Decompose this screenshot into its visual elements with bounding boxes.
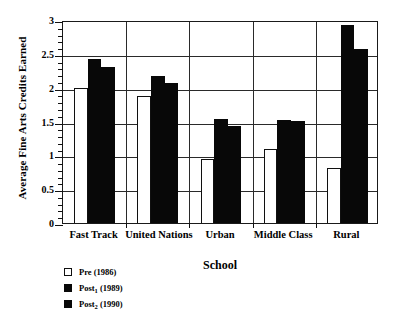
y-axis-tick-label: 0.5 [28,185,54,195]
legend-item: Post1 (1989) [64,280,214,296]
bar [101,67,115,223]
y-axis-tick-label: 2 [28,84,54,94]
y-axis-major-tick [55,90,63,91]
legend-swatch [64,268,72,276]
y-axis-tick-label: 1 [28,151,54,161]
x-axis-tick [126,223,127,228]
x-axis-category-label: Urban [188,230,251,241]
x-axis-category-label: Rural [315,230,378,241]
bar-group [126,22,189,223]
y-axis-major-tick [55,22,63,23]
bar [354,49,368,223]
bar-group [316,22,379,223]
y-axis-major-tick [55,157,63,158]
legend-label: Pre (1986) [79,268,116,277]
legend-label: Post1 (1989) [79,284,123,293]
y-axis-tick-label: 2.5 [28,50,54,60]
legend-item: Post2 (1990) [64,296,214,312]
bar-group [63,22,126,223]
bar [201,159,215,223]
x-axis-tick [316,223,317,228]
chart-legend: Pre (1986)Post1 (1989)Post2 (1990) [64,264,214,312]
legend-item: Pre (1986) [64,264,214,280]
bar [137,96,151,223]
x-axis-tick [253,223,254,228]
y-axis-major-tick [55,56,63,57]
x-axis-category-label: Middle Class [252,230,315,241]
bar-group [253,22,316,223]
y-axis-title: Average Fine Arts Credits Earned [16,8,28,228]
x-axis-category-label: United Nations [125,230,188,241]
x-axis-category-label: Fast Track [62,230,125,241]
bar-chart-figure: Average Fine Arts Credits Earned School … [0,0,396,321]
bar [291,121,305,223]
y-axis-tick-label: 3 [28,16,54,26]
legend-label: Post2 (1990) [79,300,123,309]
bar [277,120,291,223]
bar [88,59,102,223]
bar [228,126,242,223]
bar [264,149,278,223]
bar-group [189,22,252,223]
y-axis-major-tick [55,124,63,125]
y-axis-tick-label: 0 [28,219,54,229]
x-axis-tick [189,223,190,228]
bar [341,25,355,223]
y-axis-major-tick [55,225,63,226]
legend-swatch [64,300,72,308]
plot-area [62,21,378,224]
y-axis-tick-label: 1.5 [28,118,54,128]
legend-swatch [64,284,72,292]
bar [214,119,228,223]
bar [165,83,179,223]
bar [151,76,165,223]
bar [327,168,341,223]
y-axis-major-tick [55,191,63,192]
bar [74,88,88,223]
